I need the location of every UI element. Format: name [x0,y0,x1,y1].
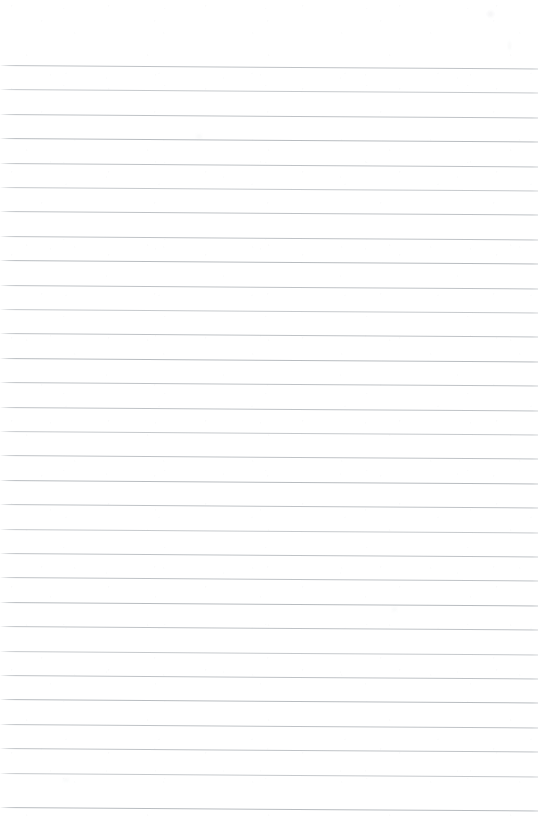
ruled-line [0,285,538,289]
ruled-line [0,480,538,484]
ruled-line [0,114,538,118]
ruled-line [0,407,538,411]
ruled-line [0,358,538,362]
ruled-line [0,138,538,142]
ruled-line [0,577,538,581]
ruled-line [0,807,538,811]
ruled-line [0,455,538,459]
ruled-line [0,773,538,777]
ruled-line [0,65,538,69]
ruled-line [0,626,538,630]
ruled-line [0,187,538,191]
ruled-line [0,431,538,435]
ruled-lines-group [0,0,542,833]
ruled-line [0,748,538,752]
ruled-line [0,211,538,215]
ruled-line [0,602,538,606]
ruled-line [0,309,538,313]
ruled-line [0,89,538,93]
ruled-line [0,504,538,508]
ruled-line [0,260,538,264]
ruled-line [0,675,538,679]
ruled-line [0,163,538,167]
scanned-page [0,0,542,833]
ruled-line [0,553,538,557]
ruled-line [0,333,538,337]
ruled-line [0,699,538,703]
ruled-line [0,529,538,533]
ruled-line [0,382,538,386]
ruled-line [0,236,538,240]
ruled-line [0,651,538,655]
ruled-line [0,724,538,728]
